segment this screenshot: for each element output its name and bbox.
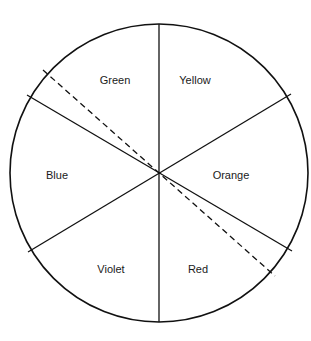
segment-label-orange: Orange bbox=[213, 169, 250, 181]
segment-label-blue: Blue bbox=[46, 169, 68, 181]
segment-label-yellow: Yellow bbox=[179, 74, 210, 86]
segment-label-violet: Violet bbox=[97, 263, 124, 275]
segment-label-green: Green bbox=[100, 74, 131, 86]
color-wheel-diagram: Green Yellow Blue Orange Violet Red bbox=[0, 0, 311, 341]
segment-label-red: Red bbox=[188, 263, 208, 275]
